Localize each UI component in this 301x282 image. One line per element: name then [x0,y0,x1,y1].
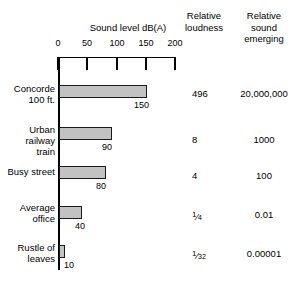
fraction-denominator: 32 [198,253,206,260]
cell-loudness-busy-street: 4 [192,170,197,181]
cell-emerging-average-office: 0.01 [232,209,296,220]
cell-loudness-urban-railway-train: 8 [192,134,197,145]
cell-emerging-rustle-of-leaves: 0.00001 [232,248,296,259]
category-label-line: Rustle of [18,242,56,253]
bar-value-average-office: 40 [75,221,85,231]
cell-emerging-busy-street: 100 [232,170,296,181]
column-header-line: Relative [181,10,227,22]
x-axis-tick-150 [145,57,146,70]
cell-emerging-urban-railway-train: 1000 [232,134,296,145]
fraction-one-thirtysecond: 1⁄32 [192,248,206,262]
column-header-relative-sound-emerging: Relative sound emerging [232,10,296,45]
bar-value-urban-railway-train: 90 [102,142,112,152]
cell-loudness-average-office: 1⁄4 [192,209,202,223]
category-label-busy-street: Busy street [7,166,55,177]
category-label-line: train [25,146,55,157]
x-tick-label-100: 100 [105,38,129,48]
category-label-line: railway [25,135,55,146]
x-tick-label-200: 200 [163,38,187,48]
category-label-line: Average [20,202,55,213]
category-label-rustle-of-leaves: Rustle of leaves [18,242,56,264]
bar-rustle-of-leaves [59,245,65,258]
cell-loudness-concorde: 496 [192,88,208,99]
category-label-line: leaves [18,253,56,264]
bar-value-rustle-of-leaves: 10 [64,260,74,270]
bar-average-office [59,206,82,219]
x-axis-tick-200 [174,57,175,70]
bar-value-busy-street: 80 [96,181,106,191]
column-header-line: Relative [232,10,296,22]
category-label-urban-railway-train: Urban railway train [25,124,55,157]
category-label-line: Urban [25,124,55,135]
fraction-one-quarter: 1⁄4 [192,209,202,223]
bar-urban-railway-train [59,127,112,140]
column-header-line: sound [232,22,296,34]
category-label-line: Concorde [14,83,55,94]
cell-loudness-rustle-of-leaves: 1⁄32 [192,248,206,262]
category-label-line: office [20,213,55,224]
category-label-line: Busy street [7,166,55,177]
sound-level-bar-chart: Sound level dB(A) 0 50 100 150 200 Conco… [0,0,301,282]
x-axis-title: Sound level dB(A) [58,22,198,33]
x-axis-tick-100 [116,57,117,70]
cell-emerging-concorde: 20,000,000 [232,88,296,99]
bar-busy-street [59,166,106,179]
category-label-line: 100 ft. [14,94,55,105]
category-label-concorde: Concorde 100 ft. [14,83,55,105]
x-axis-tick-50 [86,57,87,70]
column-header-line: emerging [232,33,296,45]
x-tick-label-0: 0 [46,38,70,48]
x-tick-label-50: 50 [75,38,99,48]
bar-value-concorde: 150 [134,100,149,110]
x-tick-label-150: 150 [134,38,158,48]
bar-concorde [59,85,147,98]
category-label-average-office: Average office [20,202,55,224]
column-header-relative-loudness: Relative loudness [181,10,227,33]
fraction-denominator: 4 [198,214,202,221]
column-header-line: loudness [181,22,227,34]
